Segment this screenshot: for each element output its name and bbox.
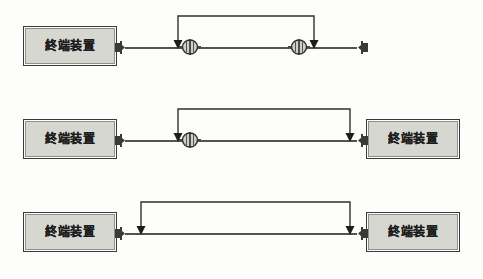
diagram-row-2: 終端装置 終端装置 (0, 93, 483, 186)
terminal-device-label: 終端装置 (388, 133, 438, 145)
plug-nub-icon (357, 133, 368, 148)
terminal-device-box-right: 終端装置 (368, 121, 458, 157)
down-arrow-icon (174, 40, 183, 49)
terminal-device-box-left: 終端装置 (25, 28, 115, 64)
plug-nub-icon (357, 226, 368, 241)
down-arrow-icon (346, 226, 355, 235)
terminal-device-label: 終端装置 (45, 133, 95, 145)
measurement-bracket (172, 107, 356, 143)
down-arrow-icon (174, 133, 183, 142)
down-arrow-icon (137, 226, 146, 235)
diagram-row-3: 終端装置 終端装置 (0, 186, 483, 279)
measurement-bracket (135, 200, 356, 236)
diagram-row-1: 終端装置 (0, 0, 483, 93)
terminal-device-label: 終端装置 (45, 40, 95, 52)
plug-nub-icon (357, 40, 368, 55)
terminal-device-box-right: 終端装置 (368, 214, 458, 250)
diagram-canvas: 終端装置 (0, 0, 483, 279)
terminal-device-label: 終端装置 (45, 226, 95, 238)
terminal-device-box-left: 終端装置 (25, 121, 115, 157)
terminal-device-label: 終端装置 (388, 226, 438, 238)
terminal-device-box-left: 終端装置 (25, 214, 115, 250)
down-arrow-icon (346, 133, 355, 142)
measurement-bracket (172, 14, 320, 50)
down-arrow-icon (310, 40, 319, 49)
